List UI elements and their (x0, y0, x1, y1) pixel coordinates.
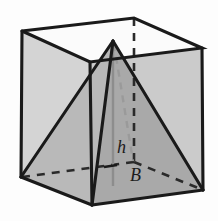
figure-container: h B (0, 0, 218, 221)
base-label: B (130, 165, 141, 185)
height-label: h (117, 137, 126, 157)
cube-edge-vertical-front (90, 62, 92, 205)
cube-edge-vertical-left (21, 31, 22, 177)
pyramid-in-cube-diagram: h B (0, 0, 218, 221)
cube-edge-vertical-right (202, 48, 203, 190)
